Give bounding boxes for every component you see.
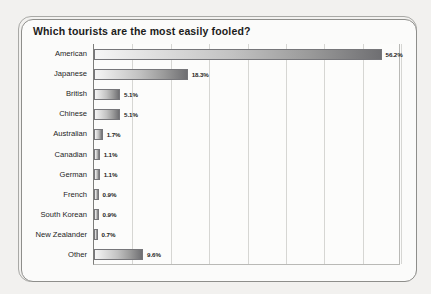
bar [94, 49, 382, 60]
bar-row: 5.1% [94, 109, 401, 120]
bar-row: 56.2% [94, 49, 401, 60]
category-axis: AmericanJapaneseBritishChineseAustralian… [28, 44, 91, 272]
bar-row: 0.9% [94, 189, 401, 200]
bar [94, 69, 188, 80]
bar-row: 0.7% [94, 229, 401, 240]
category-label: Other [68, 251, 87, 259]
bar-value-label: 5.1% [124, 110, 138, 120]
plot-area: 56.2%18.3%5.1%5.1%1.7%1.1%1.1%0.9%0.9%0.… [93, 44, 400, 265]
bar-row: 1.1% [94, 169, 401, 180]
category-label: Chinese [59, 110, 87, 118]
bar-value-label: 18.3% [192, 70, 209, 80]
bar [94, 109, 120, 120]
bar-row: 1.1% [94, 149, 401, 160]
bar-value-label: 0.9% [103, 190, 117, 200]
chart-title: Which tourists are the most easily foole… [33, 25, 251, 37]
bar-value-label: 1.1% [104, 150, 118, 160]
category-label: Australian [53, 130, 87, 138]
bar-value-label: 5.1% [124, 90, 138, 100]
gridline [401, 44, 402, 264]
category-label: New Zealander [36, 231, 88, 239]
category-label: German [60, 171, 87, 179]
bar-value-label: 0.9% [103, 210, 117, 220]
bar [94, 209, 99, 220]
bar-value-label: 56.2% [386, 50, 403, 60]
bar-row: 5.1% [94, 89, 401, 100]
bar [94, 249, 143, 260]
category-label: Japanese [54, 70, 87, 78]
bar [94, 189, 99, 200]
bar-value-label: 9.6% [147, 250, 161, 260]
chart-plot-wrapper: AmericanJapaneseBritishChineseAustralian… [28, 44, 402, 272]
bar-row: 18.3% [94, 69, 401, 80]
bar-row: 1.7% [94, 129, 401, 140]
category-label: South Korean [41, 211, 87, 219]
category-label: French [63, 191, 87, 199]
bar [94, 129, 103, 140]
bar [94, 229, 98, 240]
bar-row: 9.6% [94, 249, 401, 260]
bar-row: 0.9% [94, 209, 401, 220]
bar-value-label: 1.7% [107, 130, 121, 140]
bar [94, 169, 100, 180]
category-label: American [55, 50, 87, 58]
bar-value-label: 1.1% [104, 170, 118, 180]
bar [94, 149, 100, 160]
bar [94, 89, 120, 100]
category-label: Canadian [54, 151, 87, 159]
category-label: British [66, 90, 87, 98]
bar-value-label: 0.7% [102, 230, 116, 240]
